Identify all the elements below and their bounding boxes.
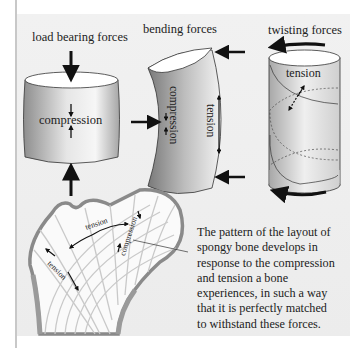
label-compression-bending: compression xyxy=(168,86,180,144)
caption-line: and tension a bone xyxy=(197,271,357,286)
caption-line: to withstand these forces. xyxy=(197,317,357,332)
heading-twisting: twisting forces xyxy=(268,23,342,38)
heading-load-bearing: load bearing forces xyxy=(32,30,128,45)
caption-line: experiences, in such a way xyxy=(197,286,357,301)
label-tension-twisting: tension xyxy=(286,66,321,81)
caption-text: The pattern of the layout of spongy bone… xyxy=(197,225,357,332)
caption-line: response to the compression xyxy=(197,256,357,271)
heading-bending: bending forces xyxy=(143,22,217,37)
caption-line: spongy bone develops in xyxy=(197,240,357,255)
caption-line: that it is perfectly matched xyxy=(197,301,357,316)
bending-shape xyxy=(131,48,245,194)
label-compression-load: compression xyxy=(39,113,102,128)
label-tension-bending: tension xyxy=(205,104,217,137)
caption-line: The pattern of the layout of xyxy=(197,225,357,240)
